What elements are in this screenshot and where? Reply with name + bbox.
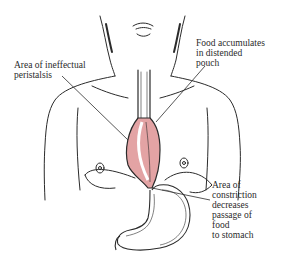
mouth bbox=[133, 23, 153, 26]
achalasia-diagram: Area of ineffectual peristalsis Food acc… bbox=[0, 0, 288, 255]
leader-constriction bbox=[152, 188, 210, 200]
right-chest bbox=[165, 172, 212, 193]
label-peristalsis: Area of ineffectual peristalsis bbox=[14, 60, 86, 80]
distended-pouch bbox=[126, 118, 160, 188]
label-food-pouch: Food accumulates in distended pouch bbox=[196, 38, 265, 68]
label-constriction: Area of constriction decreases passage o… bbox=[212, 180, 257, 240]
neck-right-outline bbox=[171, 16, 185, 76]
leader-pouch bbox=[156, 66, 205, 122]
left-chest bbox=[85, 169, 135, 178]
leader-peristalsis bbox=[62, 76, 128, 140]
neck-left-outline bbox=[100, 16, 115, 76]
